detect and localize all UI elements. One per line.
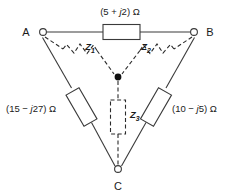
node-terminal-a (40, 29, 47, 36)
node-terminal-c (115, 166, 122, 173)
wye-label-z3-subscript: 3 (136, 115, 140, 122)
branch-label-ab-prefix: (5 + (100, 6, 119, 17)
resistor-symbol-ab (103, 25, 140, 40)
branch-label-bc-suffix: 5) Ω (199, 103, 217, 114)
wire-resistor-bc-to-c (122, 123, 147, 167)
circuit-diagram: A B C (5 + j2) Ω (15 − j27) Ω (10 − j5) … (0, 0, 233, 196)
wye-label-z2: Z2 (140, 41, 151, 54)
node-label-c: C (114, 180, 122, 192)
node-label-b: B (206, 26, 213, 38)
wye-z3-box-symbol (111, 100, 126, 134)
wire-resistor-ac-to-c (92, 123, 116, 167)
wye-network (45, 37, 192, 166)
branch-label-bc-prefix: (10 − (172, 103, 197, 114)
wye-z3 (111, 81, 126, 166)
branch-label-ac: (15 − j27) Ω (6, 103, 56, 114)
wye-z2-lead-n (122, 51, 140, 75)
node-label-a: A (22, 26, 30, 38)
wye-label-z1-subscript: 1 (91, 47, 95, 54)
branch-label-ac-prefix: (15 − (6, 103, 31, 114)
resistor-symbol-bc (141, 88, 172, 127)
center-junction-dot (115, 74, 122, 81)
branch-label-ac-suffix: 27) Ω (33, 103, 56, 114)
branch-label-ab-suffix: 2) Ω (122, 6, 140, 17)
wye-z1-lead-n (97, 51, 114, 75)
wye-z2 (122, 37, 192, 74)
wye-z1 (45, 37, 114, 74)
circuit-svg: A B C (5 + j2) Ω (15 − j27) Ω (10 − j5) … (0, 0, 233, 196)
branch-label-ab: (5 + j2) Ω (100, 6, 140, 17)
wye-label-z2-subscript: 2 (146, 47, 151, 54)
wye-label-z1: Z1 (84, 41, 95, 54)
node-terminal-b (191, 29, 198, 36)
resistor-symbol-ac (66, 88, 97, 127)
branch-label-bc: (10 − j5) Ω (172, 103, 217, 114)
wye-label-z3: Z3 (129, 109, 140, 122)
